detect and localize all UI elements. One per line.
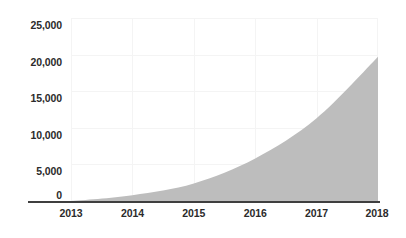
x-tick-label: 2013 — [60, 207, 83, 219]
y-tick-label: 15,000 — [30, 93, 62, 104]
y-axis-tick-labels: 25,000 20,000 15,000 10,000 5,000 0 — [0, 0, 62, 238]
x-tick-label: 2014 — [121, 207, 144, 219]
plot-area — [71, 18, 378, 201]
y-tick-label: 25,000 — [30, 20, 62, 31]
y-tick-label: 10,000 — [30, 130, 62, 141]
y-tick-label: 0 — [56, 190, 62, 201]
x-tick-label: 2015 — [182, 207, 205, 219]
x-tick-label: 2016 — [244, 207, 267, 219]
x-tick-label: 2017 — [305, 207, 328, 219]
x-axis-line — [28, 201, 380, 203]
y-tick-label: 5,000 — [36, 166, 62, 177]
area-series — [71, 18, 378, 201]
area-chart: 25,000 20,000 15,000 10,000 5,000 0 2013… — [0, 0, 406, 238]
y-tick-label: 20,000 — [30, 57, 62, 68]
area-fill-path — [71, 57, 378, 201]
x-tick-label: 2018 — [366, 207, 389, 219]
